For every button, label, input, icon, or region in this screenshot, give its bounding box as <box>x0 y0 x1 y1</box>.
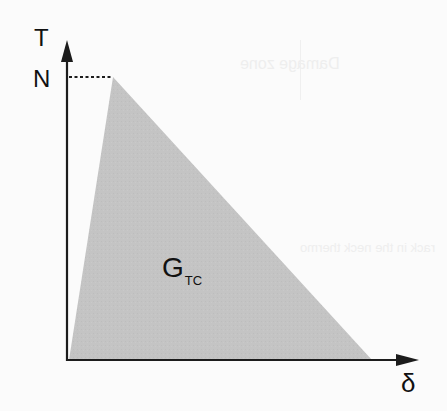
fracture-energy-subscript: TC <box>185 273 202 288</box>
x-axis-arrowhead-icon <box>396 354 419 366</box>
fracture-energy-label: GTC <box>162 254 202 282</box>
peak-traction-label: N <box>33 67 50 91</box>
y-axis-arrowhead-icon <box>61 40 73 62</box>
energy-area-triangle <box>69 77 372 360</box>
x-axis-label: δ <box>401 370 415 396</box>
y-axis-label: T <box>34 26 49 50</box>
fracture-energy-symbol: G <box>162 252 184 283</box>
traction-separation-diagram <box>0 0 447 411</box>
